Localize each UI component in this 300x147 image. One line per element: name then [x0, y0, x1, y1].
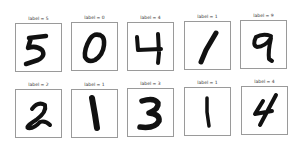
digit-image-9	[240, 20, 287, 69]
digit-image-2	[15, 89, 62, 138]
digit-image-4	[127, 22, 174, 71]
digit-image-1	[71, 89, 118, 138]
digit-image-4	[241, 86, 288, 135]
panel-label: label = 9	[240, 13, 287, 19]
digit-image-1	[184, 87, 231, 136]
panel-label: label = 4	[241, 79, 288, 85]
digit-image-5	[15, 23, 62, 72]
digit-image-0	[71, 22, 118, 71]
panel-label: label = 5	[15, 16, 62, 22]
panel-label: label = 1	[184, 14, 231, 20]
panel-label: label = 0	[71, 15, 118, 21]
panel-label: label = 1	[184, 80, 231, 86]
panel-label: label = 4	[127, 15, 174, 21]
panel-label: label = 3	[127, 81, 174, 87]
digit-image-1	[184, 21, 231, 70]
panel-label: label = 2	[15, 82, 62, 88]
panel-label: label = 1	[71, 82, 118, 88]
digit-image-3	[127, 88, 174, 137]
